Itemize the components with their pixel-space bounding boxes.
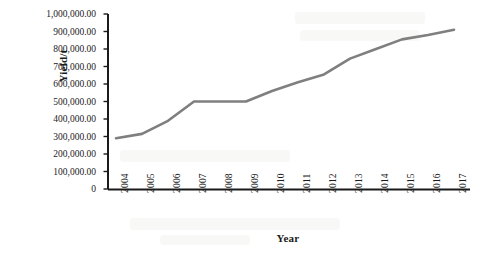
chart-figure: Yield/t 1,000,000.00 900,000.00 800,000.… (0, 0, 483, 257)
data-series-line (116, 30, 454, 139)
plot-area (0, 0, 483, 257)
axis-lines (108, 14, 470, 190)
